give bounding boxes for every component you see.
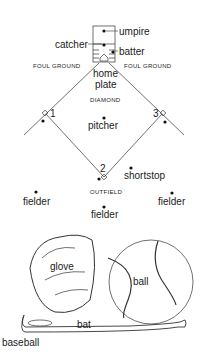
outfield-label: OUTFIELD (90, 189, 122, 196)
baseball-diagram (0, 0, 201, 352)
batter-label: batter (119, 46, 145, 57)
shortstop-label: shortstop (124, 170, 165, 181)
pitcher-label: pitcher (88, 120, 118, 131)
fielder-left-label: fielder (23, 196, 50, 207)
home-label: home (93, 68, 118, 79)
plate-label: plate (95, 79, 117, 90)
umpire-label: umpire (119, 26, 150, 37)
foul-ground-right-label: FOUL GROUND (124, 63, 171, 70)
diamond-label: DIAMOND (90, 97, 120, 104)
bat-label: bat (77, 319, 91, 330)
foul-ground-left-label: FOUL GROUND (33, 63, 80, 70)
glove-label: glove (50, 261, 74, 272)
base-1-label: 1 (50, 108, 56, 119)
baseball-caption: baseball (2, 337, 39, 348)
base-2-label: 2 (100, 163, 106, 174)
catcher-label: catcher (55, 39, 88, 50)
fielder-center-label: fielder (91, 209, 118, 220)
fielder-right-label: fielder (158, 196, 185, 207)
base-3-label: 3 (153, 108, 159, 119)
ball-label: ball (133, 276, 149, 287)
